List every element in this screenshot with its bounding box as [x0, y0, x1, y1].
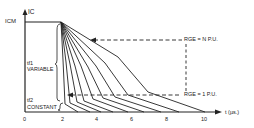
constant-label: CONSTANT [27, 104, 57, 110]
x-tick-6: 6 [130, 116, 133, 122]
rge-low-label: RGE = 1 P.U. [184, 91, 217, 97]
tf2-label: tf2 [27, 97, 33, 103]
icm-label: ICM [5, 18, 16, 24]
x-axis-label: t (µs.) [225, 109, 239, 115]
tf1-brace [55, 24, 60, 101]
ic-label: IC [28, 8, 35, 15]
x-tick-2: 2 [61, 116, 64, 122]
x-axis-arrow-icon [215, 110, 222, 115]
tf2-brace [58, 103, 63, 111]
x-tick-4: 4 [95, 116, 98, 122]
x-tick-10: 10 [201, 116, 207, 122]
rge-high-label: RGE = N P.U. [184, 36, 218, 42]
variable-label: VARIABLE [27, 66, 54, 72]
curve-6 [61, 22, 144, 112]
curve-5 [61, 22, 128, 112]
x-tick-0: 0 [23, 116, 26, 122]
x-tick-8: 8 [165, 116, 168, 122]
diagram-svg: ICM IC tf1 VARIABLE tf2 CONSTANT RGE = N… [0, 0, 254, 128]
y-axis-arrow-icon [23, 9, 28, 15]
rge-low-arrow-icon [67, 93, 73, 98]
turn-off-waveform-diagram: ICM IC tf1 VARIABLE tf2 CONSTANT RGE = N… [0, 0, 254, 128]
